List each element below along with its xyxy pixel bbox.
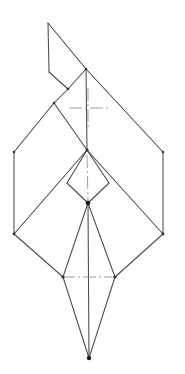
tail-spine [88, 203, 89, 358]
diamond-upper-left [14, 103, 54, 152]
inner-right-crease [86, 69, 87, 150]
diagram-canvas [0, 0, 185, 374]
creases-layer [62, 88, 116, 277]
wing-left-from-corner [14, 234, 63, 277]
inner-left-crease [54, 103, 87, 150]
lower-left-node [13, 233, 16, 236]
flap-lower-diagonal [49, 72, 68, 89]
upper-diamond-top-node [85, 68, 88, 71]
diamond-upper-right [86, 69, 163, 152]
hub-node [86, 201, 91, 206]
diamond-left-node [13, 151, 15, 153]
small-diamond-left-lower [67, 183, 88, 203]
small-diamond-right-lower [88, 183, 109, 203]
wing-right-upper [88, 203, 115, 277]
origami-fold-drawing [0, 0, 185, 374]
flap-fold-node [67, 88, 70, 91]
upper-left-node [53, 102, 56, 105]
upper-left-edge [54, 89, 68, 103]
center-vertical-crease [87, 155, 88, 200]
flap-diagonal-right [48, 23, 86, 69]
diamond-right-node [162, 151, 164, 153]
edges-layer [14, 23, 163, 358]
small-diamond-left-upper [67, 150, 87, 183]
wing-right-node [114, 276, 117, 279]
small-diamond-right-upper [87, 150, 109, 183]
center-cross-node [86, 149, 89, 152]
lower-right-node [162, 233, 165, 236]
wing-right-from-corner [115, 234, 163, 277]
tail-left [63, 277, 89, 358]
wing-left-upper [63, 203, 88, 277]
tail-tip-node [87, 356, 91, 360]
tail-right [89, 277, 115, 358]
flap-fold-to-top [68, 69, 86, 89]
flap-left-vertical [48, 23, 49, 72]
lower-right-diagonal [87, 150, 163, 234]
wing-left-node [62, 276, 65, 279]
